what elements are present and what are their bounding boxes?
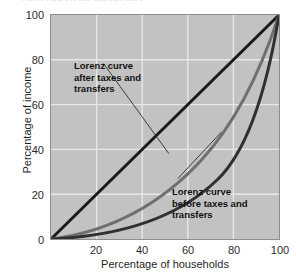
before-taxes-leader-line xyxy=(178,132,222,179)
cut-off-heading: Lorenz curves before and after taxes xyxy=(22,0,143,1)
y-axis-title: Percentage of income xyxy=(21,30,33,210)
x-tick-60: 60 xyxy=(168,244,208,256)
x-axis-title: Percentage of households xyxy=(50,258,280,270)
lorenz-curve-figure: Lorenz curves before and after taxes 100… xyxy=(0,0,296,273)
x-tick-20: 20 xyxy=(76,244,116,256)
annotation-after-taxes: Lorenz curve after taxes and transfers xyxy=(74,60,141,95)
y-tick-100: 100 xyxy=(4,9,44,21)
annotation-before-taxes: Lorenz curve before taxes and transfers xyxy=(172,186,248,221)
x-tick-100: 100 xyxy=(260,244,296,256)
x-tick-80: 80 xyxy=(214,244,254,256)
x-tick-40: 40 xyxy=(122,244,162,256)
y-tick-0: 0 xyxy=(4,234,44,246)
